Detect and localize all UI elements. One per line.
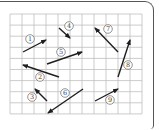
vector-grid-diagram: 123456789	[0, 0, 159, 130]
vector-label-4: 4	[67, 22, 71, 30]
vector-arrow-3	[35, 89, 47, 101]
vector-label-9: 9	[108, 96, 112, 104]
vector-label-3: 3	[30, 93, 34, 101]
vector-label-7: 7	[106, 25, 110, 33]
vector-label-5: 5	[59, 48, 63, 56]
vector-label-8: 8	[126, 61, 130, 69]
vector-label-1: 1	[28, 35, 32, 43]
vector-label-6: 6	[63, 89, 67, 97]
vector-label-2: 2	[38, 73, 42, 81]
